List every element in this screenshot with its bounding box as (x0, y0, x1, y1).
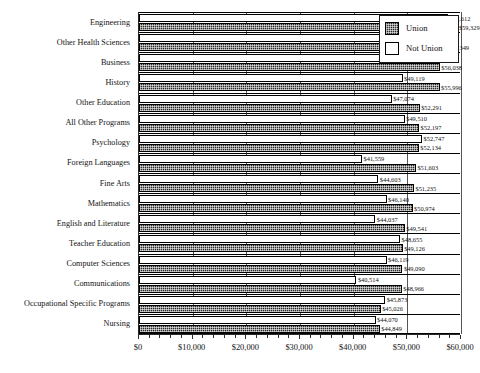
bar-union (139, 305, 381, 313)
bar-value-label-union: $51,235 (414, 185, 436, 192)
axis-tick-minor (310, 335, 311, 338)
bar-union (139, 204, 413, 212)
category-label: Engineering (0, 18, 130, 27)
bar-group: $44,070$44,849 (139, 314, 460, 334)
bar-union (139, 285, 402, 293)
axis-tick-label: $60,000 (446, 342, 473, 353)
axis-tick-minor (235, 335, 236, 338)
axis-tick-minor (331, 335, 332, 338)
bar-value-label-union: $52,134 (419, 144, 441, 151)
bar-not-union (139, 215, 375, 223)
axis-tick-minor (202, 335, 203, 338)
bar-not-union (139, 95, 392, 103)
bar-value-label-union: $50,974 (413, 205, 435, 212)
bar-value-label-union: $49,126 (403, 245, 425, 252)
bar-not-union (139, 74, 403, 82)
category-label: English and Literature (0, 219, 130, 228)
bar-union (139, 224, 405, 232)
bar-group: $52,747$52,134 (139, 133, 460, 153)
bar-value-label-not-union: $49,510 (405, 115, 427, 122)
bar-not-union (139, 296, 385, 304)
axis-tick-minor (320, 335, 321, 338)
bar-value-label-not-union: $49,119 (403, 75, 425, 82)
bar-group: $48,655$49,126 (139, 233, 460, 253)
axis-tick-label: $0 (134, 342, 142, 353)
axis-tick-minor (363, 335, 364, 338)
bar-not-union (139, 256, 387, 264)
bar-value-label-union: $55,996 (440, 84, 462, 91)
axis-tick-minor (428, 335, 429, 338)
bar-value-label-union: $44,849 (380, 325, 402, 332)
category-label: Other Health Sciences (0, 38, 130, 47)
axis-tick-major (245, 335, 246, 339)
category-label: Business (0, 58, 130, 67)
bar-not-union (139, 34, 390, 42)
bar-not-union (139, 115, 405, 123)
bar-value-label-not-union: $46,119 (387, 256, 409, 263)
category-label: Psychology (0, 138, 130, 147)
bar-not-union (139, 54, 419, 62)
gridline (461, 12, 462, 334)
bar-union (139, 265, 402, 273)
bar-not-union (139, 175, 378, 183)
legend-item: Not Union (385, 40, 443, 56)
legend-swatch-notunion (385, 42, 399, 55)
bar-value-label-not-union: $44,603 (378, 176, 400, 183)
axis-tick-minor (149, 335, 150, 338)
bar-value-label-union: $59,329 (457, 24, 479, 31)
bar-union (139, 124, 419, 132)
category-axis: EngineeringOther Health SciencesBusiness… (0, 12, 134, 334)
bar-union (139, 63, 440, 71)
axis-tick-major (138, 335, 139, 339)
axis-tick-minor (213, 335, 214, 338)
bar-value-label-not-union: $44,037 (375, 216, 397, 223)
axis-tick-minor (278, 335, 279, 338)
category-label: Occupational Specific Programs (0, 299, 130, 308)
category-label: Communications (0, 279, 130, 288)
bar-group: $49,510$52,197 (139, 113, 460, 133)
axis-tick-major (460, 335, 461, 339)
axis-tick-minor (224, 335, 225, 338)
category-label: Other Education (0, 98, 130, 107)
bar-not-union (139, 135, 422, 143)
axis-tick-major (299, 335, 300, 339)
axis-tick-minor (267, 335, 268, 338)
bar-value-label-union: $52,197 (419, 124, 441, 131)
bar-value-label-not-union: $46,140 (387, 196, 409, 203)
axis-tick-minor (181, 335, 182, 338)
axis-tick-minor (342, 335, 343, 338)
bar-value-label-union: $45,026 (381, 305, 403, 312)
bar-value-label-not-union: $40,514 (356, 276, 378, 283)
axis-tick-minor (374, 335, 375, 338)
bar-not-union (139, 195, 387, 203)
bar-group: $44,037$49,541 (139, 213, 460, 233)
axis-tick-minor (159, 335, 160, 338)
bar-value-label-not-union: $47,074 (392, 95, 414, 102)
bar-not-union (139, 316, 376, 324)
chart-legend: UnionNot Union (379, 15, 459, 63)
bar-not-union (139, 155, 362, 163)
value-axis-tick-labels: $0$10,000$20,000$30,000$40,000$50,000$60… (138, 342, 460, 356)
bar-value-label-not-union: $41,559 (362, 155, 384, 162)
bar-union (139, 83, 440, 91)
bar-value-label-union: $49,090 (402, 265, 424, 272)
category-label: Mathematics (0, 199, 130, 208)
axis-tick-major (353, 335, 354, 339)
bar-value-label-not-union: $52,747 (422, 135, 444, 142)
category-label: Fine Arts (0, 179, 130, 188)
category-label: Teacher Education (0, 239, 130, 248)
category-label: Nursing (0, 319, 130, 328)
category-label: Computer Sciences (0, 259, 130, 268)
bar-value-label-not-union: $44,070 (376, 316, 398, 323)
axis-tick-minor (256, 335, 257, 338)
bar-value-label-not-union: $45,873 (385, 296, 407, 303)
axis-tick-major (192, 335, 193, 339)
category-label: History (0, 78, 130, 87)
category-label: All Other Programs (0, 118, 130, 127)
bar-group: $41,559$51,603 (139, 153, 460, 173)
bar-union (139, 144, 419, 152)
axis-tick-label: $50,000 (393, 342, 420, 353)
legend-label: Union (406, 23, 427, 33)
bar-value-label-union: $52,291 (420, 104, 442, 111)
